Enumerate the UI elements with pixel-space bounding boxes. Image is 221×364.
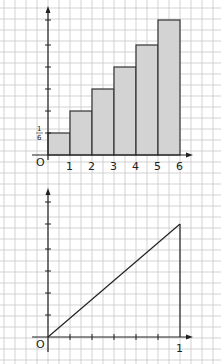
bar-4 [114, 67, 136, 155]
histogram-chart: O 1 6 1 2 3 4 5 6 [32, 6, 193, 173]
bar-3 [92, 89, 114, 155]
bar-6 [158, 20, 180, 155]
x-tick-label-5: 5 [154, 160, 161, 173]
origin-label: O [36, 338, 45, 351]
grid-paper [0, 0, 221, 364]
x-tick-label-3: 3 [110, 160, 117, 173]
x-tick-label-4: 4 [132, 160, 139, 173]
fraction-denominator: 6 [37, 134, 42, 142]
x-tick-label-2: 2 [88, 160, 95, 173]
x-arrow-icon [186, 335, 193, 340]
origin-label: O [36, 156, 45, 169]
bar-5 [136, 45, 158, 155]
y-arrow-icon [46, 6, 51, 13]
y-arrow-icon [46, 188, 51, 195]
x-tick-label-1: 1 [66, 160, 73, 173]
bar-1 [48, 133, 70, 155]
x-tick-label-1: 1 [176, 342, 183, 355]
x-arrow-icon [186, 153, 193, 158]
x-tick-label-6: 6 [176, 160, 183, 173]
bar-2 [70, 111, 92, 155]
fraction-numerator: 1 [37, 125, 41, 133]
figure: O 1 6 1 2 3 4 5 6 O 1 [0, 0, 221, 364]
